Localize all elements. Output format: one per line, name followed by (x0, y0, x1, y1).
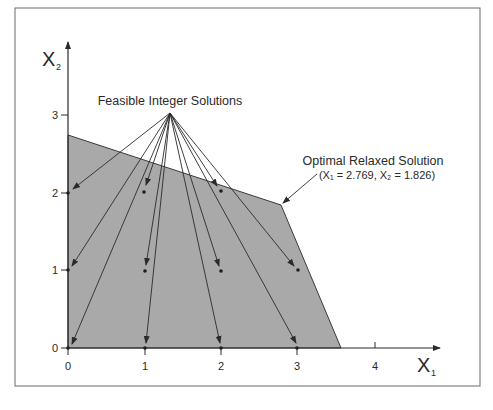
svg-text:1: 1 (142, 360, 148, 372)
svg-text:X: X (417, 354, 430, 376)
optimal-relaxed-solution-values: (X₁ = 2.769, X₂ = 1.826) (319, 169, 435, 181)
svg-text:0: 0 (65, 360, 71, 372)
svg-text:4: 4 (372, 360, 378, 372)
svg-text:2: 2 (218, 360, 224, 372)
svg-text:2: 2 (52, 187, 58, 199)
svg-text:3: 3 (52, 109, 58, 121)
svg-text:3: 3 (294, 360, 300, 372)
integer-programming-diagram: X 2 X 1 0 1 2 3 4 0 1 2 3 (0, 0, 493, 410)
svg-text:2: 2 (56, 62, 61, 72)
svg-text:1: 1 (431, 368, 436, 378)
svg-text:0: 0 (52, 342, 58, 354)
optimal-relaxed-solution-label: Optimal Relaxed Solution (302, 154, 443, 168)
feasible-integer-solutions-label: Feasible Integer Solutions (98, 94, 243, 108)
svg-text:X: X (42, 48, 55, 70)
svg-text:1: 1 (52, 264, 58, 276)
